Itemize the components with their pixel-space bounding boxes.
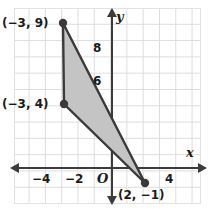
x-axis-tick-neg4: −4	[32, 172, 50, 186]
vertex-label-top-left: (−3, 9)	[2, 16, 48, 30]
y-axis-label: y	[116, 9, 124, 24]
coordinate-plane-figure: x y 8 6 −4 −2 4 O (−3, 9) (−3, 4) (2, −1…	[0, 0, 217, 215]
x-axis-tick-neg2: −2	[65, 172, 83, 186]
y-axis-tick-8: 8	[93, 41, 101, 55]
vertex-marker-a	[59, 19, 67, 27]
triangle-polygon	[63, 23, 145, 183]
origin-label: O	[97, 171, 108, 186]
vertex-label-bottom: (2, −1)	[118, 188, 164, 202]
vertex-marker-c	[141, 179, 149, 187]
y-axis-tick-6: 6	[93, 74, 101, 88]
x-axis-tick-4: 4	[165, 172, 173, 186]
vertex-marker-b	[60, 100, 68, 108]
vertex-label-middle-left: (−3, 4)	[2, 97, 48, 111]
x-axis-label: x	[186, 145, 194, 160]
